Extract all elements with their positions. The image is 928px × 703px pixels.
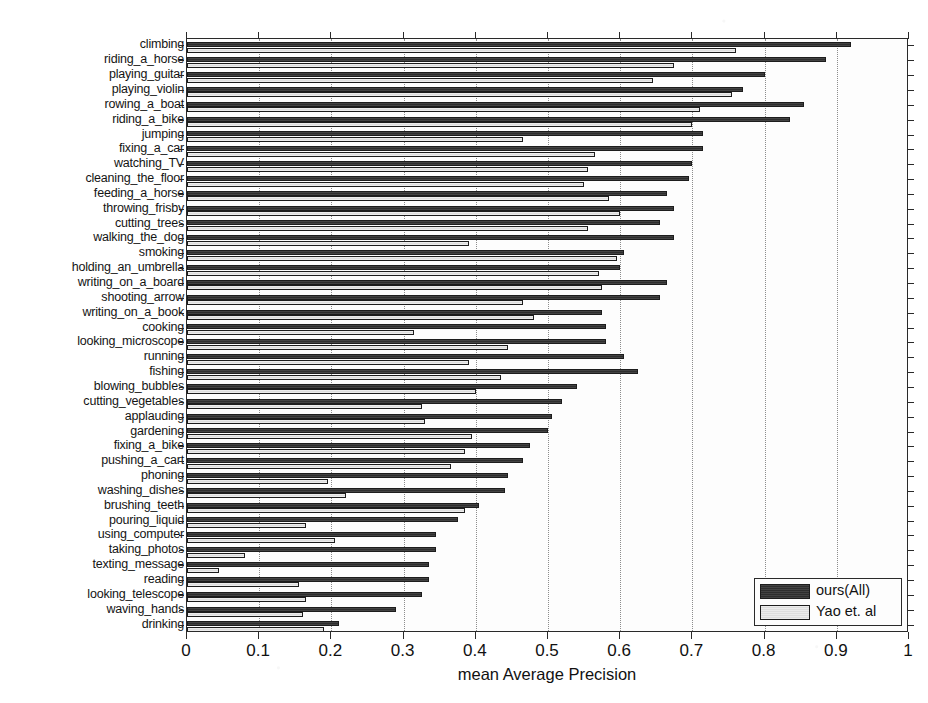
y-axis-tick-mark	[179, 446, 184, 447]
bar-ours	[187, 324, 606, 329]
y-axis-tick-mark	[179, 550, 184, 551]
bar-ours	[187, 592, 422, 597]
y-axis-tick-mark-right	[908, 313, 914, 314]
y-axis-tick-label: looking_microscope	[2, 335, 184, 348]
y-axis-tick-mark	[179, 120, 184, 121]
bar-group	[187, 470, 907, 485]
bar-ours	[187, 161, 692, 166]
legend-label-ours: ours(All)	[816, 582, 870, 598]
bar-group	[187, 277, 907, 292]
bar-ours	[187, 399, 562, 404]
x-axis-tick-mark	[258, 632, 259, 639]
x-axis-tick-label: 0.8	[752, 641, 776, 661]
bar-group	[187, 366, 907, 381]
y-axis-tick-mark-right	[908, 149, 914, 150]
x-axis-tick-mark	[836, 632, 837, 639]
y-axis-tick-mark-right	[908, 432, 914, 433]
y-axis-tick-mark-right	[908, 387, 914, 388]
bar-group	[187, 262, 907, 277]
bar-yao	[187, 553, 245, 558]
y-axis-tick-label: cooking	[2, 321, 184, 334]
bar-yao	[187, 538, 335, 543]
y-axis-tick-mark	[179, 417, 184, 418]
bar-yao	[187, 493, 346, 498]
bar-group	[187, 173, 907, 188]
y-axis-tick-mark	[179, 328, 184, 329]
y-axis-tick-label: using_computer	[2, 528, 184, 541]
x-axis-tick-label: 0.2	[319, 641, 343, 661]
y-axis-tick-mark	[179, 432, 184, 433]
bar-yao	[187, 612, 303, 617]
y-axis-tick-mark-right	[908, 90, 914, 91]
bar-yao	[187, 582, 299, 587]
bar-yao	[187, 211, 620, 216]
y-axis-tick-mark	[179, 45, 184, 46]
y-axis-tick-mark-right	[908, 535, 914, 536]
y-axis-tick-mark	[179, 283, 184, 284]
bar-group	[187, 381, 907, 396]
bar-group	[187, 485, 907, 500]
y-axis-tick-mark	[179, 313, 184, 314]
bar-yao	[187, 152, 595, 157]
y-axis-tick-mark-right	[908, 476, 914, 477]
y-axis-tick-mark	[179, 298, 184, 299]
x-axis-ticks-top	[186, 31, 908, 39]
legend-entry-yao: Yao et. al	[760, 604, 898, 622]
x-axis-tick-mark	[330, 632, 331, 639]
bar-ours	[187, 265, 620, 270]
y-axis-tick-label: smoking	[2, 246, 184, 259]
x-axis-tick-mark-top	[836, 32, 837, 39]
bar-group	[187, 69, 907, 84]
bar-yao	[187, 300, 523, 305]
x-axis-tick-label: 0.3	[391, 641, 415, 661]
bar-group	[187, 410, 907, 425]
bar-ours	[187, 42, 851, 47]
bar-ours	[187, 72, 765, 77]
y-axis-tick-mark-right	[908, 179, 914, 180]
bar-yao	[187, 256, 617, 261]
bar-chart-figure: climbingriding_a_horseplaying_guitarplay…	[0, 0, 928, 703]
bar-group	[187, 98, 907, 113]
bar-yao	[187, 196, 609, 201]
bar-yao	[187, 597, 306, 602]
x-axis-tick-label: 1	[903, 641, 912, 661]
y-axis-tick-label: looking_telescope	[2, 588, 184, 601]
y-axis-tick-mark	[179, 491, 184, 492]
bar-yao	[187, 523, 306, 528]
y-axis-tick-label: gardening	[2, 425, 184, 438]
y-axis-tick-mark	[179, 372, 184, 373]
bar-yao	[187, 375, 501, 380]
bar-yao	[187, 479, 328, 484]
y-axis-tick-label: drinking	[2, 618, 184, 631]
y-axis-tick-label: writing_on_a_board	[2, 276, 184, 289]
bar-ours	[187, 339, 606, 344]
y-axis-tick-mark-right	[908, 580, 914, 581]
y-axis-tick-mark-right	[908, 105, 914, 106]
bar-group	[187, 188, 907, 203]
y-axis-tick-mark-right	[908, 135, 914, 136]
y-axis-tick-mark-right	[908, 357, 914, 358]
bar-ours	[187, 458, 523, 463]
bar-yao	[187, 271, 599, 276]
bar-group	[187, 455, 907, 470]
y-axis-tick-mark-right	[908, 402, 914, 403]
bar-ours	[187, 295, 660, 300]
bar-group	[187, 158, 907, 173]
bar-group	[187, 514, 907, 529]
y-axis-tick-mark	[179, 521, 184, 522]
y-axis-tick-label: playing_guitar	[2, 68, 184, 81]
bar-ours	[187, 235, 674, 240]
y-axis-tick-mark	[179, 238, 184, 239]
bar-ours	[187, 621, 339, 626]
bar-yao	[187, 241, 469, 246]
legend-entry-ours: ours(All)	[760, 583, 898, 601]
bar-yao	[187, 419, 425, 424]
y-axis-tick-mark-right	[908, 164, 914, 165]
x-axis-tick-mark	[547, 632, 548, 639]
legend: ours(All) Yao et. al	[754, 578, 902, 626]
y-axis-tick-mark-right	[908, 417, 914, 418]
bar-group	[187, 217, 907, 232]
y-axis-labels: climbingriding_a_horseplaying_guitarplay…	[0, 38, 184, 632]
bar-group	[187, 128, 907, 143]
bar-ours	[187, 414, 552, 419]
